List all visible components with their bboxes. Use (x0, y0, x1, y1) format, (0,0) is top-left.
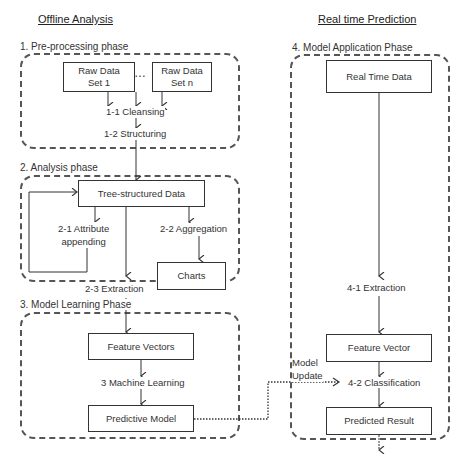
predictive-model-node: Predictive Model (88, 405, 194, 432)
raw-data-set-n-node: Raw Data Set n (152, 62, 212, 92)
model-update-label: Model Update (292, 356, 323, 382)
feature-vector-node: Feature Vector (326, 334, 432, 362)
predicted-result-node: Predicted Result (326, 407, 432, 435)
charts-node: Charts (157, 262, 226, 290)
step-attribute-line1: 2-1 Attribute (58, 222, 109, 235)
raw-data-set-1-line1: Raw Data (78, 65, 120, 77)
ellipsis-separator: … (134, 66, 146, 80)
step-structuring: 1-2 Structuring (104, 128, 166, 139)
step-extraction-realtime: 4-1 Extraction (347, 282, 406, 293)
step-extraction: 2-3 Extraction (85, 283, 144, 294)
phase-label-model-learning: 3. Model Learning Phase (20, 299, 133, 310)
model-update-line2: Update (292, 369, 323, 382)
raw-data-set-n-line1: Raw Data (161, 65, 203, 77)
phase-label-model-application: 4. Model Application Phase (292, 42, 415, 53)
real-time-data-node: Real Time Data (326, 60, 432, 93)
model-update-line1: Model (292, 356, 323, 369)
step-attribute-appending: 2-1 Attribute appending (58, 222, 109, 248)
raw-data-set-n-line2: Set n (171, 77, 193, 89)
step-aggregation: 2-2 Aggregation (160, 223, 227, 234)
raw-data-set-1-node: Raw Data Set 1 (63, 62, 135, 92)
step-attribute-line2: appending (58, 235, 109, 248)
tree-structured-data-node: Tree-structured Data (78, 180, 205, 207)
step-machine-learning: 3 Machine Learning (101, 377, 184, 388)
feature-vectors-node: Feature Vectors (88, 333, 194, 360)
raw-data-set-1-line2: Set 1 (88, 77, 110, 89)
step-classification: 4-2 Classification (348, 377, 420, 388)
step-cleansing: 1-1 Cleansing (106, 106, 165, 117)
phase-label-preprocessing: 1. Pre-processing phase (20, 41, 130, 52)
phase-label-analysis: 2. Analysis phase (20, 162, 100, 173)
